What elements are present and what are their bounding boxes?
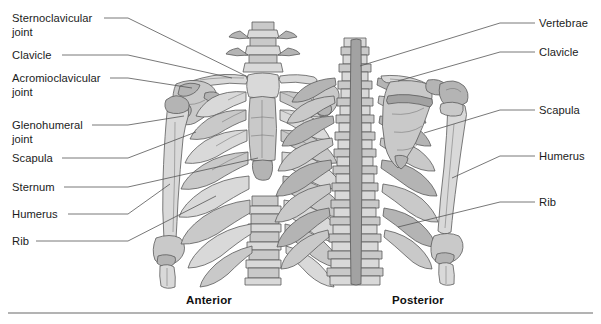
leader-line-right-clavicle	[398, 52, 535, 81]
label-left-rib: Rib	[12, 235, 29, 249]
caption-posterior: Posterior	[392, 294, 444, 306]
label-right-humerus: Humerus	[539, 150, 585, 164]
label-left-acromioclavicular-joint: Acromioclavicular joint	[12, 72, 101, 99]
anatomy-figure: .bn { fill:#d9d9d9; stroke:#5a5a5a; stro…	[0, 0, 601, 324]
leader-line-left-humerus	[68, 184, 170, 214]
caption-anterior: Anterior	[186, 294, 232, 306]
anterior-view-graphic	[153, 22, 347, 288]
label-left-sternoclavicular-joint: Sternoclavicular joint	[12, 12, 92, 39]
label-left-humerus: Humerus	[12, 208, 58, 222]
label-left-glenohumeral-joint: Glenohumeral joint	[12, 119, 83, 146]
label-right-scapula: Scapula	[539, 104, 580, 118]
leader-line-right-scapula	[424, 110, 535, 133]
leader-line-right-vertebrae	[360, 23, 535, 66]
label-left-clavicle: Clavicle	[12, 49, 52, 63]
label-right-rib: Rib	[539, 196, 556, 210]
leader-line-right-humerus	[452, 156, 535, 178]
label-right-clavicle: Clavicle	[539, 46, 579, 60]
label-left-sternum: Sternum	[12, 181, 55, 195]
label-right-vertebrae: Vertebrae	[539, 17, 588, 31]
sternum-graphic	[247, 73, 280, 180]
label-left-scapula: Scapula	[12, 152, 53, 166]
leader-line-left-sternoclavicular-joint	[104, 18, 248, 77]
skeleton-illustration: .bn { fill:#d9d9d9; stroke:#5a5a5a; stro…	[0, 0, 601, 324]
posterior-humerus	[431, 81, 468, 285]
